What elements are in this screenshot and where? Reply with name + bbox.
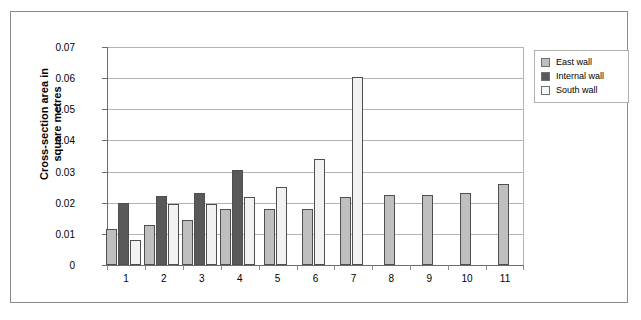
legend-item-east: East wall bbox=[541, 56, 622, 69]
bar-east-8 bbox=[384, 195, 395, 265]
x-tick-mark bbox=[523, 265, 524, 270]
figure-frame: Cross-section area in square metres 00.0… bbox=[10, 11, 628, 303]
legend-swatch-east-icon bbox=[541, 58, 550, 67]
x-tick-label: 3 bbox=[199, 273, 205, 284]
plot-area bbox=[107, 47, 524, 265]
x-tick-label: 6 bbox=[313, 273, 319, 284]
legend-swatch-south-icon bbox=[541, 86, 550, 95]
bar-east-10 bbox=[460, 193, 471, 265]
y-tick-label: 0.04 bbox=[33, 135, 75, 146]
bar-east-2 bbox=[144, 225, 155, 265]
bar-internal-3 bbox=[194, 193, 205, 265]
x-tick-mark bbox=[372, 265, 373, 270]
bar-internal-1 bbox=[118, 203, 129, 265]
bar-east-11 bbox=[498, 184, 509, 265]
gridline bbox=[107, 78, 524, 79]
legend-item-south: South wall bbox=[541, 84, 622, 97]
x-tick-label: 9 bbox=[426, 273, 432, 284]
y-tick-label: 0 bbox=[33, 260, 75, 271]
x-tick-label: 7 bbox=[351, 273, 357, 284]
gridline bbox=[107, 140, 524, 141]
y-tick-label: 0.05 bbox=[33, 104, 75, 115]
bar-internal-2 bbox=[156, 196, 167, 265]
plot-right-border bbox=[523, 47, 524, 265]
bar-south-3 bbox=[206, 204, 217, 265]
x-tick-mark bbox=[486, 265, 487, 270]
x-tick-label: 1 bbox=[123, 273, 129, 284]
bar-east-6 bbox=[302, 209, 313, 265]
x-tick-mark bbox=[259, 265, 260, 270]
x-tick-mark bbox=[183, 265, 184, 270]
bar-south-1 bbox=[130, 240, 141, 265]
bar-east-5 bbox=[264, 209, 275, 265]
bar-east-7 bbox=[340, 197, 351, 266]
bar-east-3 bbox=[182, 220, 193, 265]
bar-south-6 bbox=[314, 159, 325, 265]
chart-legend: East wallInternal wallSouth wall bbox=[534, 50, 629, 103]
x-tick-mark bbox=[297, 265, 298, 270]
y-tick-label: 0.02 bbox=[33, 197, 75, 208]
x-tick-mark bbox=[410, 265, 411, 270]
y-tick-label: 0.06 bbox=[33, 73, 75, 84]
x-tick-mark bbox=[221, 265, 222, 270]
gridline bbox=[107, 47, 524, 48]
y-axis-title-line-1: Cross-section area in bbox=[38, 68, 51, 180]
x-tick-mark bbox=[145, 265, 146, 270]
x-axis-line bbox=[107, 265, 524, 266]
x-tick-label: 5 bbox=[275, 273, 281, 284]
y-tick-label: 0.01 bbox=[33, 228, 75, 239]
x-tick-label: 4 bbox=[237, 273, 243, 284]
y-tick-label: 0.07 bbox=[33, 42, 75, 53]
chart-screenshot: Cross-section area in square metres 00.0… bbox=[0, 0, 641, 320]
bar-south-2 bbox=[168, 204, 179, 265]
legend-label: East wall bbox=[556, 57, 592, 68]
x-tick-label: 11 bbox=[500, 273, 510, 284]
legend-label: South wall bbox=[556, 85, 598, 96]
y-axis-title-line-2: square metres bbox=[51, 68, 64, 180]
legend-item-internal: Internal wall bbox=[541, 70, 622, 83]
x-tick-mark bbox=[334, 265, 335, 270]
bar-south-4 bbox=[244, 197, 255, 266]
bar-east-4 bbox=[220, 209, 231, 265]
bar-south-5 bbox=[276, 187, 287, 265]
gridline bbox=[107, 109, 524, 110]
bar-south-7 bbox=[352, 77, 363, 265]
x-tick-mark bbox=[107, 265, 108, 270]
bar-east-9 bbox=[422, 195, 433, 265]
legend-swatch-internal-icon bbox=[541, 72, 550, 81]
y-tick-label: 0.03 bbox=[33, 166, 75, 177]
x-tick-label: 2 bbox=[161, 273, 167, 284]
x-tick-label: 10 bbox=[462, 273, 473, 284]
x-tick-mark bbox=[448, 265, 449, 270]
y-axis-title: Cross-section area in square metres bbox=[31, 24, 71, 224]
x-tick-label: 8 bbox=[389, 273, 395, 284]
bar-east-1 bbox=[106, 229, 117, 265]
legend-label: Internal wall bbox=[556, 71, 604, 82]
bar-internal-4 bbox=[232, 170, 243, 265]
